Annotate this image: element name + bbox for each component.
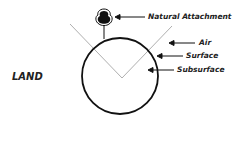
label-surface: Surface — [186, 51, 218, 60]
guide-line-left — [70, 24, 122, 78]
tree-icon — [96, 9, 112, 39]
arrow-subsurface — [148, 68, 174, 73]
label-air: Air — [199, 38, 211, 47]
label-land: LAND — [12, 71, 43, 82]
arrow-surface — [157, 54, 183, 59]
label-subsurface: Subsurface — [177, 65, 224, 74]
arrow-air — [169, 41, 195, 46]
label-natural-attachment: Natural Attachment — [148, 12, 231, 21]
arrow-natural-attachment — [115, 15, 145, 20]
